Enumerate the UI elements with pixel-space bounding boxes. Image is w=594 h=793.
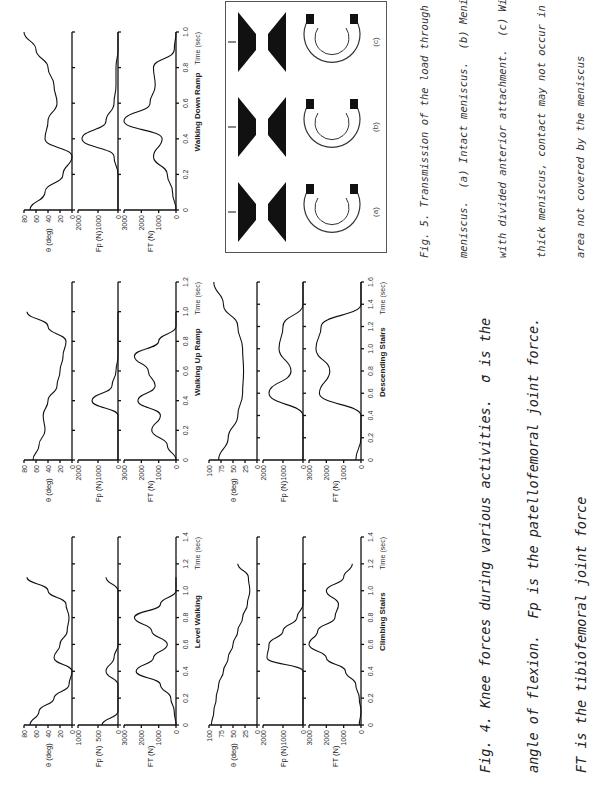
caption-line: meniscus. (a) Intact meniscus. (b) Menis… bbox=[457, 0, 470, 258]
svg-text:1.0: 1.0 bbox=[182, 307, 189, 317]
svg-text:80: 80 bbox=[21, 465, 28, 473]
svg-text:2000: 2000 bbox=[260, 730, 267, 746]
data-curve bbox=[92, 312, 118, 460]
svg-text:1000: 1000 bbox=[155, 215, 162, 231]
svg-text:0.2: 0.2 bbox=[182, 693, 189, 703]
data-curve bbox=[267, 564, 303, 725]
svg-text:0.6: 0.6 bbox=[182, 98, 189, 108]
svg-text:0: 0 bbox=[182, 458, 189, 462]
caption-line: angle of flexion. Fp is the patellofemor… bbox=[525, 318, 541, 773]
svg-text:Fp (N): Fp (N) bbox=[94, 230, 103, 252]
data-curve bbox=[27, 312, 66, 460]
svg-text:FT (N): FT (N) bbox=[146, 480, 155, 502]
svg-text:3000: 3000 bbox=[121, 215, 128, 231]
svg-text:40: 40 bbox=[45, 215, 52, 223]
svg-text:0.8: 0.8 bbox=[182, 613, 189, 623]
chart-walking-down-ramp: 020406080θ (deg)010002000Fp (N)010002000… bbox=[20, 18, 200, 258]
svg-text:1000: 1000 bbox=[95, 215, 102, 231]
svg-text:1000: 1000 bbox=[95, 465, 102, 481]
svg-text:80: 80 bbox=[21, 730, 28, 738]
svg-text:Fp (N): Fp (N) bbox=[279, 745, 288, 767]
svg-text:20: 20 bbox=[57, 215, 64, 223]
svg-text:2000: 2000 bbox=[138, 215, 145, 231]
svg-text:FT (N): FT (N) bbox=[331, 480, 340, 502]
svg-text:0.4: 0.4 bbox=[182, 134, 189, 144]
svg-text:2000: 2000 bbox=[138, 465, 145, 481]
data-curve bbox=[134, 577, 176, 725]
svg-text:40: 40 bbox=[45, 465, 52, 473]
svg-text:0: 0 bbox=[358, 465, 365, 469]
svg-text:1.2: 1.2 bbox=[182, 277, 189, 287]
svg-text:0: 0 bbox=[173, 730, 180, 734]
svg-text:60: 60 bbox=[33, 465, 40, 473]
svg-text:(a): (a) bbox=[371, 207, 380, 217]
svg-text:2000: 2000 bbox=[323, 465, 330, 481]
svg-text:(b): (b) bbox=[371, 122, 380, 132]
svg-text:Walking Up Ramp: Walking Up Ramp bbox=[193, 328, 202, 396]
svg-text:80: 80 bbox=[21, 215, 28, 223]
svg-text:0: 0 bbox=[173, 465, 180, 469]
svg-text:1.6: 1.6 bbox=[367, 277, 374, 287]
data-curve bbox=[211, 564, 249, 725]
svg-text:(c): (c) bbox=[371, 37, 380, 47]
svg-text:1000: 1000 bbox=[280, 465, 287, 481]
svg-text:0: 0 bbox=[182, 208, 189, 212]
svg-text:0: 0 bbox=[367, 723, 374, 727]
svg-text:2000: 2000 bbox=[138, 730, 145, 746]
caption-line: Fig. 5. Transmission of the load through… bbox=[418, 0, 431, 258]
svg-text:1.4: 1.4 bbox=[367, 299, 374, 309]
panel-level-walking: 020406080θ (deg)05001000Fp (N)0100020003… bbox=[20, 523, 200, 773]
svg-text:Fp (N): Fp (N) bbox=[94, 745, 103, 767]
svg-text:0.2: 0.2 bbox=[367, 693, 374, 703]
caption-line: area not covered by the meniscus bbox=[574, 0, 587, 258]
svg-text:1000: 1000 bbox=[340, 465, 347, 481]
panel-climbing-stairs: 0255075100θ (deg)010002000Fp (N)01000200… bbox=[205, 523, 385, 773]
svg-text:0: 0 bbox=[358, 730, 365, 734]
svg-text:0.2: 0.2 bbox=[182, 425, 189, 435]
svg-text:75: 75 bbox=[218, 730, 225, 738]
svg-text:θ (deg): θ (deg) bbox=[229, 743, 238, 767]
svg-text:2000: 2000 bbox=[323, 730, 330, 746]
panel-descending-stairs: 0255075100θ (deg)010002000Fp (N)01000200… bbox=[205, 268, 385, 508]
data-curve bbox=[82, 32, 118, 210]
svg-text:0: 0 bbox=[173, 215, 180, 219]
svg-text:FT (N): FT (N) bbox=[146, 745, 155, 767]
svg-text:Descending Stairs: Descending Stairs bbox=[378, 327, 387, 397]
svg-text:Time (sec): Time (sec) bbox=[379, 282, 387, 315]
svg-text:0.6: 0.6 bbox=[182, 639, 189, 649]
svg-text:0.4: 0.4 bbox=[367, 666, 374, 676]
svg-text:Time (sec): Time (sec) bbox=[194, 32, 202, 65]
caption-line: FT is the tibiofemoral joint force bbox=[573, 318, 589, 773]
svg-text:0.8: 0.8 bbox=[367, 613, 374, 623]
svg-text:0.4: 0.4 bbox=[367, 411, 374, 421]
data-curve bbox=[316, 282, 361, 460]
svg-text:1.4: 1.4 bbox=[367, 532, 374, 542]
chart-level-walking: 020406080θ (deg)05001000Fp (N)0100020003… bbox=[20, 523, 200, 773]
data-curve bbox=[309, 564, 361, 725]
svg-text:20: 20 bbox=[57, 730, 64, 738]
svg-text:500: 500 bbox=[95, 730, 102, 742]
svg-text:2000: 2000 bbox=[75, 215, 82, 231]
svg-text:θ (deg): θ (deg) bbox=[44, 743, 53, 767]
svg-text:Walking Down Ramp: Walking Down Ramp bbox=[193, 73, 202, 152]
svg-text:Time (sec): Time (sec) bbox=[194, 282, 202, 315]
svg-text:1.0: 1.0 bbox=[182, 586, 189, 596]
svg-text:2000: 2000 bbox=[260, 465, 267, 481]
svg-text:1.2: 1.2 bbox=[367, 559, 374, 569]
svg-text:θ (deg): θ (deg) bbox=[229, 478, 238, 502]
svg-text:1.0: 1.0 bbox=[367, 586, 374, 596]
svg-text:20: 20 bbox=[57, 465, 64, 473]
svg-text:0.8: 0.8 bbox=[182, 336, 189, 346]
svg-text:Fp (N): Fp (N) bbox=[94, 480, 103, 502]
data-curve bbox=[134, 312, 176, 460]
svg-text:1000: 1000 bbox=[75, 730, 82, 746]
svg-text:1.4: 1.4 bbox=[182, 532, 189, 542]
svg-text:1000: 1000 bbox=[155, 730, 162, 746]
svg-text:50: 50 bbox=[230, 465, 237, 473]
chart-walking-up-ramp: 020406080θ (deg)010002000Fp (N)010002000… bbox=[20, 268, 200, 508]
svg-text:3000: 3000 bbox=[306, 465, 313, 481]
svg-text:1000: 1000 bbox=[280, 730, 287, 746]
svg-text:0.2: 0.2 bbox=[182, 169, 189, 179]
svg-text:0.6: 0.6 bbox=[182, 366, 189, 376]
caption-line: thick meniscus, contact may not occur in… bbox=[535, 0, 548, 258]
